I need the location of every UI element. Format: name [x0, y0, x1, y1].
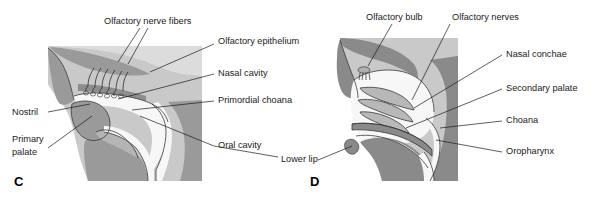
label-primary-palate-line1: Primary: [12, 134, 44, 144]
panel-letter-c: C: [14, 174, 24, 189]
label-olfactory-epithelium: Olfactory epithelium: [218, 36, 300, 46]
label-olfactory-nerve-fibers: Olfactory nerve fibers: [104, 16, 192, 26]
label-nasal-conchae: Nasal conchae: [506, 49, 567, 59]
label-primary-palate-line2: palate: [12, 147, 37, 157]
anatomy-figure: Olfactory nerve fibers Olfactory epithel…: [0, 0, 598, 198]
label-oral-cavity: Oral cavity: [218, 140, 262, 150]
panel-c-drawing: [48, 28, 214, 181]
label-choana: Choana: [506, 115, 539, 125]
label-olfactory-bulb: Olfactory bulb: [366, 12, 423, 22]
label-oropharynx: Oropharynx: [506, 146, 554, 156]
label-nostril: Nostril: [12, 107, 38, 117]
panel-letter-d: D: [310, 174, 319, 189]
label-primordial-choana: Primordial choana: [218, 95, 293, 105]
figure-canvas: Olfactory nerve fibers Olfactory epithel…: [0, 0, 598, 198]
label-lower-lip: Lower lip: [281, 154, 318, 164]
leader-lower-lip: [318, 146, 352, 160]
label-nasal-cavity: Nasal cavity: [218, 68, 268, 78]
panel-d-lower-lip: [345, 139, 359, 154]
label-olfactory-nerves: Olfactory nerves: [452, 12, 519, 22]
label-secondary-palate: Secondary palate: [506, 83, 578, 93]
